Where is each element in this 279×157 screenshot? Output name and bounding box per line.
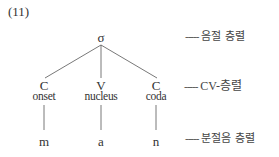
tier-label-segment: -----분절음 층렬 bbox=[185, 133, 255, 144]
role-label-nucleus: nucleus bbox=[84, 91, 117, 103]
tier-label-syllable: -----음절 층렬 bbox=[185, 31, 245, 42]
tier-dash: ----- bbox=[185, 30, 198, 42]
role-label-coda: coda bbox=[146, 91, 167, 103]
tier-dash: ----- bbox=[185, 132, 198, 144]
tier-label-cv: -----CV-층렬 bbox=[184, 80, 242, 92]
syllable-root-sigma: σ bbox=[97, 31, 104, 44]
segment-m: m bbox=[39, 135, 49, 148]
segment-a: a bbox=[98, 135, 104, 148]
segment-n: n bbox=[153, 135, 160, 148]
tier-text: CV-층렬 bbox=[200, 79, 242, 93]
role-label-onset: onset bbox=[33, 91, 56, 103]
tier-dash: ----- bbox=[184, 80, 197, 92]
tier-text: 음절 층렬 bbox=[201, 30, 245, 43]
tier-text: 분절음 층렬 bbox=[201, 132, 255, 145]
